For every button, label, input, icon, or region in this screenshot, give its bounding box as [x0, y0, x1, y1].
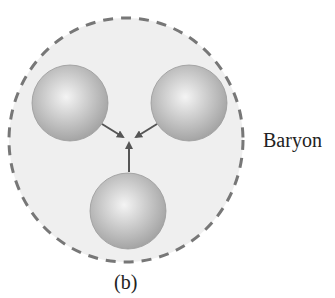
figure-caption: (b)	[114, 271, 137, 294]
quark-top-right	[151, 65, 227, 141]
quark-top-left	[32, 65, 108, 141]
baryon-label: Baryon	[263, 129, 322, 152]
quark-bottom	[90, 173, 166, 249]
